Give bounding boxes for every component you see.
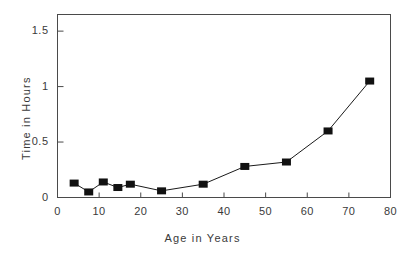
x-tick-label: 70 <box>329 205 369 217</box>
data-point-marker <box>240 163 249 170</box>
x-tick-label: 20 <box>121 205 161 217</box>
data-point-marker <box>282 159 291 166</box>
y-tick-label: 0.5 <box>32 135 49 147</box>
data-point-marker <box>70 180 79 187</box>
plot-frame <box>58 15 391 198</box>
x-tick-label: 40 <box>204 205 244 217</box>
data-point-marker <box>199 181 208 188</box>
data-point-marker <box>113 184 122 191</box>
x-tick-label: 30 <box>162 205 202 217</box>
y-tick-label: 1.5 <box>32 24 49 36</box>
x-axis-title: Age in Years <box>0 232 405 244</box>
data-point-marker <box>126 181 135 188</box>
data-point-marker <box>157 187 166 194</box>
data-point-marker <box>99 178 108 185</box>
x-tick-label: 0 <box>38 205 78 217</box>
data-point-marker <box>84 188 93 195</box>
x-tick-label: 50 <box>246 205 286 217</box>
y-tick-label: 0 <box>42 191 49 203</box>
plot-area-border <box>58 15 391 198</box>
x-tick-label: 10 <box>79 205 119 217</box>
x-tick-label: 80 <box>371 205 405 217</box>
x-tick-label: 60 <box>287 205 327 217</box>
data-point-marker <box>324 127 333 134</box>
plot-svg <box>0 0 405 260</box>
data-point-marker <box>365 78 374 85</box>
chart-figure: 00.511.5 01020304050607080 Time in Hours… <box>0 0 405 260</box>
y-tick-label: 1 <box>42 80 49 92</box>
y-axis-title: Time in Hours <box>20 76 32 160</box>
